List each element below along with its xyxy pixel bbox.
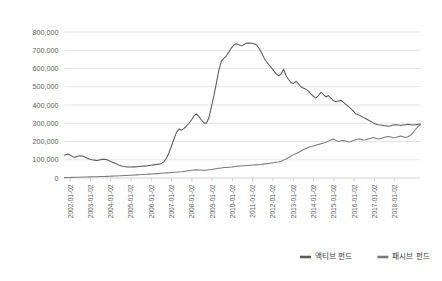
x-axis-tick-label: 2013-01-02 (290, 184, 297, 218)
y-axis-tick-label: 100,000 (33, 155, 59, 164)
legend-label-2: 패시브 펀드 (392, 251, 429, 261)
x-axis-tick-label: 2004-01-02 (107, 184, 114, 218)
gridlines (65, 32, 421, 178)
x-axis-tick-label: 2010-01-02 (229, 184, 236, 218)
y-axis-tick-label: 800,000 (33, 28, 59, 37)
y-axis-tick-label: 400,000 (33, 101, 59, 110)
chart-legend: 액티브 펀드패시브 펀드 (300, 251, 430, 261)
x-axis-tick-label: 2007-01-02 (168, 184, 175, 218)
x-axis-tick-label: 2015-01-02 (330, 184, 337, 218)
x-axis-tick-label: 2014-01-02 (310, 184, 317, 218)
x-axis-tick-label: 2008-01-02 (188, 184, 195, 218)
x-axis-tick-labels: 2002-01-022003-01-022004-01-022005-01-02… (67, 184, 399, 218)
y-axis-tick-label: 300,000 (33, 119, 59, 128)
data-series (65, 43, 421, 178)
x-axis-tick-label: 2016-01-02 (351, 184, 358, 218)
x-axis-tick-label: 2003-01-02 (87, 184, 94, 218)
x-axis-tick-label: 2005-01-02 (127, 184, 134, 218)
legend-label-1: 액티브 펀드 (315, 251, 352, 261)
y-axis-tick-label: 200,000 (33, 137, 59, 146)
y-axis-tick-label: 0 (55, 174, 59, 183)
x-axis-tick-marks (70, 178, 395, 181)
y-axis-tick-label: 500,000 (33, 82, 59, 91)
y-axis-tick-label: 700,000 (33, 46, 59, 55)
x-axis-tick-label: 2011-01-02 (249, 184, 256, 218)
chart-container: 800,000700,000600,000500,000400,000300,0… (0, 0, 442, 281)
x-axis-tick-label: 2012-01-02 (269, 184, 276, 218)
x-axis-tick-label: 2017-01-02 (371, 184, 378, 218)
x-axis-tick-label: 2009-01-02 (209, 184, 216, 218)
series-line-2 (65, 125, 421, 178)
y-axis-tick-labels: 800,000700,000600,000500,000400,000300,0… (33, 28, 59, 183)
x-axis-tick-label: 2018-01-02 (391, 184, 398, 218)
x-axis-tick-label: 2002-01-02 (67, 184, 74, 218)
line-chart: 800,000700,000600,000500,000400,000300,0… (0, 0, 442, 281)
x-axis-tick-label: 2006-01-02 (148, 184, 155, 218)
y-axis-tick-label: 600,000 (33, 64, 59, 73)
